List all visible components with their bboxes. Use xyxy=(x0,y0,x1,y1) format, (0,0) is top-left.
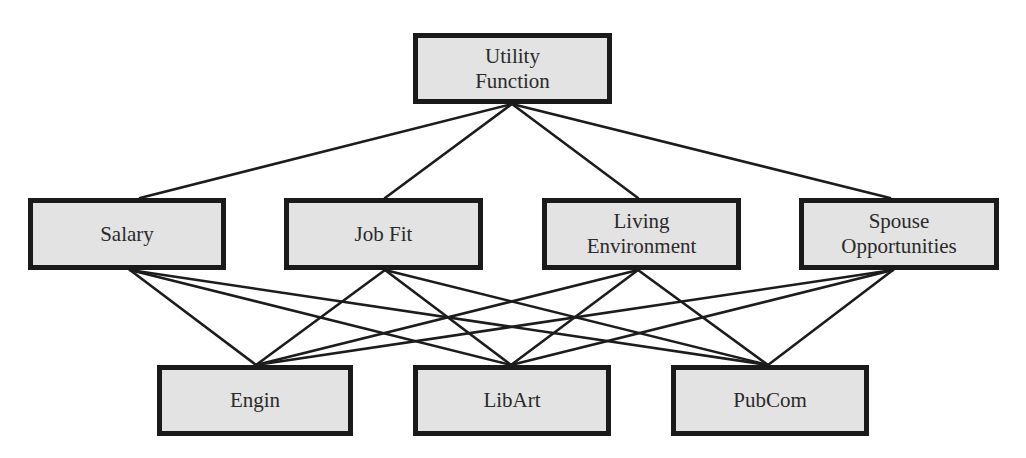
node-engin: Engin xyxy=(157,365,353,436)
node-label-line: Spouse xyxy=(869,209,930,234)
edge-spouse-engin xyxy=(256,270,893,365)
node-label-line: Function xyxy=(475,69,550,94)
node-job-fit: Job Fit xyxy=(284,198,483,270)
node-living-environment: Living Environment xyxy=(542,198,741,270)
edge-utility-spouse xyxy=(512,104,890,198)
node-label-line: Living xyxy=(614,209,670,234)
node-label-line: Salary xyxy=(100,222,154,247)
edge-utility-salary xyxy=(140,104,512,198)
node-salary: Salary xyxy=(28,198,226,270)
node-libart: LibArt xyxy=(413,365,611,436)
node-label-line: Environment xyxy=(587,234,697,259)
node-label-line: Engin xyxy=(230,388,280,413)
edge-salary-engin xyxy=(130,270,256,365)
node-spouse-opportunities: Spouse Opportunities xyxy=(799,198,999,270)
node-utility-function: Utility Function xyxy=(413,33,612,104)
edge-utility-jobfit xyxy=(385,104,512,198)
edge-jobfit-engin xyxy=(256,270,385,365)
edge-utility-living xyxy=(512,104,638,198)
node-label-line: Utility xyxy=(485,44,540,69)
node-pubcom: PubCom xyxy=(671,365,869,436)
node-label-line: LibArt xyxy=(483,388,540,413)
utility-hierarchy-diagram: Utility Function Salary Job Fit Living E… xyxy=(0,0,1026,458)
node-label-line: Job Fit xyxy=(355,222,413,247)
node-label-line: PubCom xyxy=(733,388,807,413)
node-label-line: Opportunities xyxy=(841,234,957,259)
